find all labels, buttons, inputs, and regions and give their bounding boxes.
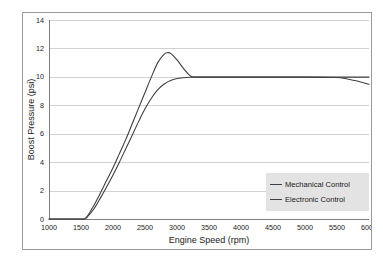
x-axis-tick-label: 3000: [169, 223, 185, 232]
y-axis-tick-label: 10: [36, 72, 44, 81]
legend-item-electronic-control: Electronic Control: [268, 192, 367, 207]
x-axis-tick-label: 1000: [41, 223, 57, 232]
y-axis-tick-label: 6: [40, 129, 44, 138]
x-axis-tick-label: 5000: [297, 223, 313, 232]
x-axis-tick-label: 4000: [233, 223, 249, 232]
y-axis-tick-label: 14: [36, 16, 44, 25]
x-axis-tick-label: 5500: [329, 223, 345, 232]
y-axis-tick-label: 12: [36, 44, 44, 53]
x-axis-tick-label: 2500: [137, 223, 153, 232]
legend-label: Electronic Control: [285, 195, 345, 204]
x-axis-tick-label: 1500: [73, 223, 89, 232]
x-axis-tick-label: 2000: [105, 223, 121, 232]
line-chart-plot: 0246810121410001500200025003000350040004…: [23, 13, 371, 249]
x-axis-tick-label: 6000: [361, 223, 371, 232]
legend-line-icon: [270, 199, 282, 200]
y-axis-tick-label: 4: [40, 158, 44, 167]
y-axis-tick-label: 2: [40, 186, 44, 195]
x-axis-title: Engine Speed (rpm): [169, 235, 250, 245]
legend-label: Mechanical Control: [285, 180, 350, 189]
legend-item-mechanical-control: Mechanical Control: [268, 177, 367, 192]
chart-legend: Mechanical Control Electronic Control: [266, 173, 369, 211]
x-axis-tick-label: 4500: [265, 223, 281, 232]
legend-line-icon: [270, 184, 282, 185]
chart-figure: 0246810121410001500200025003000350040004…: [22, 12, 372, 250]
y-axis-title: Boost Pressure (psi): [26, 79, 36, 161]
y-axis-tick-label: 8: [40, 101, 44, 110]
x-axis-tick-label: 3500: [201, 223, 217, 232]
